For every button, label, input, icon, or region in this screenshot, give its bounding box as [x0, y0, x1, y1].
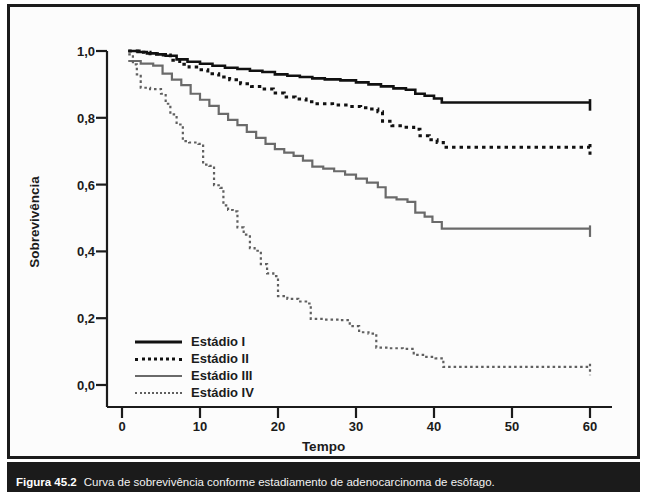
x-tick-label-30: 30	[349, 419, 363, 434]
legend-item-estadio-ii: Estádio II	[135, 350, 254, 367]
chart-legend: Estádio I Estádio II Estádio III Estádio…	[135, 333, 254, 401]
legend-label-estadio-ii: Estádio II	[191, 351, 249, 366]
y-axis-title: Sobrevivência	[27, 176, 42, 268]
y-tick-label-2: 0,8	[10, 110, 95, 125]
x-tick-label-50: 50	[505, 419, 519, 434]
legend-label-estadio-i: Estádio I	[191, 334, 245, 349]
x-tick-label-40: 40	[427, 419, 441, 434]
series-line-2	[128, 51, 590, 147]
legend-label-estadio-iv: Estádio IV	[191, 385, 254, 400]
y-tick-label-1: 1,0	[10, 44, 95, 59]
x-tick-label-0: 0	[118, 419, 125, 434]
survival-chart-svg	[10, 7, 643, 462]
figure-root: 1,0 0,8 0,6 0,4 0,2 0,0 0 10 20 30 40 50…	[0, 0, 649, 492]
figure-caption-body: Curva de sobrevivência conforme estadiam…	[84, 476, 495, 488]
legend-line-icon-estadio-i	[135, 336, 182, 348]
legend-line-icon-estadio-iii	[135, 370, 182, 382]
legend-label-estadio-iii: Estádio III	[191, 368, 252, 383]
figure-caption: Figura 45.2Curva de sobrevivência confor…	[16, 476, 495, 488]
chart-frame: 1,0 0,8 0,6 0,4 0,2 0,0 0 10 20 30 40 50…	[7, 4, 640, 459]
x-tick-label-10: 10	[193, 419, 207, 434]
legend-item-estadio-iii: Estádio III	[135, 367, 254, 384]
legend-item-estadio-iv: Estádio IV	[135, 384, 254, 401]
x-axis-title: Tempo	[10, 439, 637, 454]
y-tick-label-6: 0,0	[10, 378, 95, 393]
y-tick-label-5: 0,2	[10, 311, 95, 326]
legend-line-icon-estadio-ii	[135, 353, 182, 365]
y-tick-label-4: 0,4	[10, 244, 95, 259]
plot-surface: 1,0 0,8 0,6 0,4 0,2 0,0 0 10 20 30 40 50…	[10, 7, 637, 456]
legend-item-estadio-i: Estádio I	[135, 333, 254, 350]
figure-caption-band: Figura 45.2Curva de sobrevivência confor…	[7, 462, 640, 492]
legend-line-icon-estadio-iv	[135, 387, 182, 399]
series-layer	[128, 51, 590, 375]
x-tick-label-60: 60	[583, 419, 597, 434]
figure-caption-label: Figura 45.2	[16, 476, 77, 488]
y-tick-label-3: 0,6	[10, 177, 95, 192]
x-tick-label-20: 20	[271, 419, 285, 434]
